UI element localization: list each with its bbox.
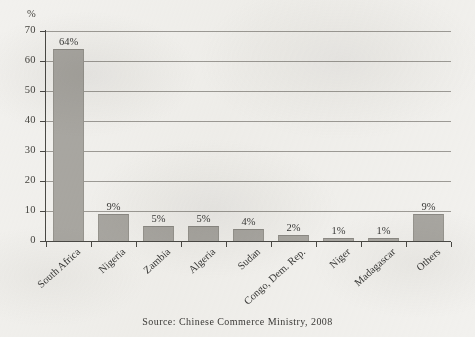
gridline: [46, 181, 451, 182]
y-axis-tick-label: 30: [6, 144, 36, 155]
x-axis-tick: [46, 242, 47, 247]
y-axis-line: [45, 30, 46, 242]
gridline: [46, 121, 451, 122]
y-axis-unit-label: %: [27, 8, 36, 19]
y-axis-tick-label: 50: [6, 84, 36, 95]
y-axis-tick-label: 60: [6, 54, 36, 65]
plot-area: 64%9%5%5%4%2%1%1%9%: [46, 31, 451, 241]
y-axis-tick-label: 0: [6, 234, 36, 245]
x-axis-line: [45, 241, 451, 242]
y-axis-tick-label: 40: [6, 114, 36, 125]
bar-value-label: 5%: [197, 213, 211, 224]
y-axis-tick-label: 70: [6, 24, 36, 35]
gridline: [46, 151, 451, 152]
gridline: [46, 91, 451, 92]
bar-value-label: 5%: [152, 213, 166, 224]
gridline: [46, 61, 451, 62]
bar-value-label: 4%: [242, 216, 256, 227]
y-axis-tick-label: 10: [6, 204, 36, 215]
source-caption: Source: Chinese Commerce Ministry, 2008: [0, 316, 475, 327]
bar: [53, 49, 85, 241]
y-axis-tick-label: 20: [6, 174, 36, 185]
bar-chart-figure: % 010203040506070 64%9%5%5%4%2%1%1%9% So…: [0, 0, 475, 337]
bar-value-label: 64%: [59, 36, 78, 47]
bar-value-label: 1%: [377, 225, 391, 236]
gridline: [46, 31, 451, 32]
bar-value-label: 2%: [287, 222, 301, 233]
